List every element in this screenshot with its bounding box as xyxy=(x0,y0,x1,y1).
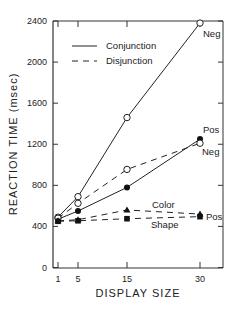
y-tick-label: 1200 xyxy=(27,139,47,149)
annotation-conj-neg: Neg xyxy=(203,28,220,39)
annotation-conj-pos: Pos xyxy=(203,124,220,135)
series-disjunction-shape-pos xyxy=(55,214,203,224)
annotation-shape: Shape xyxy=(151,219,178,230)
x-tick-label: 5 xyxy=(75,274,80,284)
series-conjunction-pos xyxy=(55,136,203,222)
x-tick-label: 30 xyxy=(195,274,205,284)
annotation-disj-neg: Neg xyxy=(202,146,219,157)
y-tick-label: 2000 xyxy=(27,57,47,67)
x-tick-label: 1 xyxy=(55,274,60,284)
reaction-time-chart: 04008001200160020002400 151530 REACTION … xyxy=(0,0,236,314)
annotation-disj-pos: Pos xyxy=(206,211,223,222)
y-tick-label: 800 xyxy=(32,180,47,190)
y-tick-label: 400 xyxy=(32,221,47,231)
y-tick-label: 0 xyxy=(42,263,47,273)
legend: Conjunction Disjunction xyxy=(72,40,156,66)
y-tick-label: 1600 xyxy=(27,98,47,108)
legend-conjunction-label: Conjunction xyxy=(106,40,156,51)
legend-disjunction-label: Disjunction xyxy=(106,55,152,66)
y-axis-title: REACTION TIME (msec) xyxy=(7,73,19,216)
x-tick-label: 15 xyxy=(122,274,132,284)
y-tick-label: 2400 xyxy=(27,16,47,26)
x-axis-title: DISPLAY SIZE xyxy=(96,287,181,299)
annotation-color: Color xyxy=(152,199,175,210)
